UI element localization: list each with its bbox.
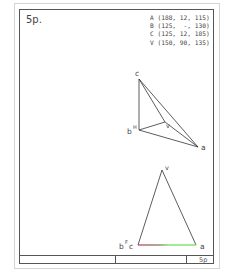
edge-va-top bbox=[165, 122, 198, 147]
edge-vb-front bbox=[138, 170, 162, 245]
projection-drawing: c b H v a v b F c a bbox=[0, 0, 226, 276]
label-b-top: b bbox=[127, 127, 132, 136]
edge-va-front bbox=[162, 170, 196, 245]
top-view bbox=[139, 79, 198, 147]
front-view-labels: v b F c a bbox=[119, 164, 205, 251]
edge-bv-top bbox=[139, 122, 165, 130]
title-block-divider bbox=[115, 256, 116, 264]
title-block-sheet-label: 5p bbox=[199, 256, 207, 264]
edge-ca-top bbox=[139, 79, 198, 147]
label-v-front: v bbox=[165, 164, 169, 172]
label-c-front: c bbox=[129, 242, 133, 251]
label-f-superscript: F bbox=[125, 239, 128, 245]
label-h-superscript: H bbox=[133, 124, 137, 130]
edge-ba-top bbox=[139, 130, 198, 147]
edge-cv-top bbox=[139, 79, 165, 122]
front-view bbox=[138, 170, 196, 246]
label-a-top: a bbox=[201, 143, 206, 152]
label-a-front: a bbox=[200, 242, 205, 251]
edge-ca-front bbox=[138, 244, 196, 245]
label-v-top: v bbox=[166, 122, 170, 130]
label-c-top: c bbox=[135, 69, 139, 78]
title-block: 5p bbox=[19, 255, 214, 264]
title-block-divider bbox=[186, 256, 187, 264]
label-b-front: b bbox=[119, 242, 124, 251]
